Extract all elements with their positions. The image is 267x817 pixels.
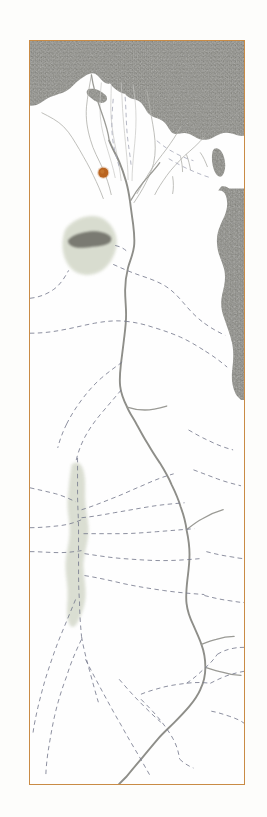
page-title: Map of Egypt: Nile Valley, Delta and Wes… bbox=[0, 21, 1, 22]
map-canvas bbox=[30, 41, 244, 784]
land-area bbox=[30, 41, 244, 784]
map-figure: Map of Egypt: Nile Valley, Delta and Wes… bbox=[0, 0, 267, 817]
map-frame-border bbox=[29, 40, 245, 785]
city-marker-memphis[interactable] bbox=[97, 166, 109, 178]
